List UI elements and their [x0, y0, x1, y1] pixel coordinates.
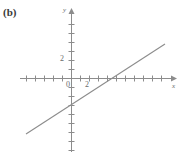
y-axis-arrow-icon: [69, 8, 75, 14]
x-tick-label-0: 0: [66, 80, 70, 89]
plotted-line: [26, 44, 165, 134]
x-axis-label: x: [172, 82, 175, 90]
x-tick-label-2: 2: [85, 80, 89, 89]
figure-panel: (b): [0, 0, 181, 158]
x-axis-arrow-icon: [171, 76, 177, 82]
y-axis-label: y: [63, 6, 66, 14]
coordinate-plot: [0, 0, 181, 158]
y-tick-label-2: 2: [60, 54, 64, 63]
